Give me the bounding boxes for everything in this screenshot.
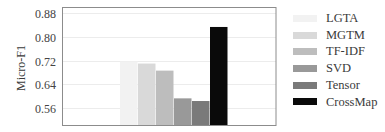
- legend-label: MGTM: [326, 29, 365, 42]
- legend-label: LGTA: [326, 12, 358, 25]
- y-axis-ticks: 0.560.640.720.800.88: [35, 7, 56, 116]
- legend-label: TF-IDF: [326, 45, 365, 58]
- legend-item-tf-idf: TF-IDF: [293, 43, 385, 60]
- bar-lgta: [120, 61, 138, 125]
- y-tick-label: 0.72: [35, 55, 56, 69]
- legend-swatch: [293, 48, 317, 55]
- bar-tensor: [192, 101, 210, 125]
- y-tick-label: 0.88: [35, 7, 56, 21]
- micro-f1-bar-chart: 0.560.640.720.800.88 Micro-F1 LGTA MGTM …: [0, 0, 385, 132]
- legend-item-mgtm: MGTM: [293, 27, 385, 44]
- legend: LGTA MGTM TF-IDF SVD Tensor CrossMap: [293, 10, 385, 110]
- legend-label: Tensor: [326, 79, 360, 92]
- y-tick-label: 0.80: [35, 31, 56, 45]
- legend-swatch: [293, 32, 317, 39]
- legend-swatch: [293, 15, 317, 22]
- legend-item-lgta: LGTA: [293, 10, 385, 27]
- legend-label: SVD: [326, 62, 351, 75]
- bar-crossmap: [210, 27, 228, 126]
- bars: [120, 27, 228, 126]
- y-tick-label: 0.56: [35, 102, 56, 116]
- legend-item-svd: SVD: [293, 60, 385, 77]
- legend-swatch: [293, 82, 317, 89]
- legend-item-tensor: Tensor: [293, 77, 385, 94]
- y-axis-label: Micro-F1: [14, 45, 28, 91]
- legend-swatch: [293, 98, 317, 105]
- y-tick-label: 0.64: [35, 78, 56, 92]
- bar-svd: [174, 98, 192, 125]
- legend-item-crossmap: CrossMap: [293, 93, 385, 110]
- legend-label: CrossMap: [326, 96, 377, 109]
- bar-tf-idf: [156, 71, 174, 126]
- legend-swatch: [293, 65, 317, 72]
- bar-mgtm: [138, 64, 156, 126]
